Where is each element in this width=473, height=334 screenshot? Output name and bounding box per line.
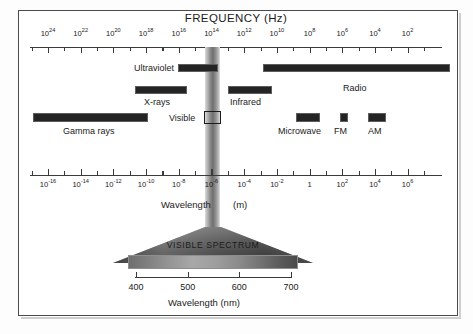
frequency-minor-tick (195, 47, 196, 51)
figure-frame-border (18, 10, 458, 316)
wavelength-tick-label: 10-2 (270, 180, 283, 189)
band-label-xrays: X-rays (144, 97, 170, 107)
wavelength-tick-label: 102 (336, 180, 348, 189)
frequency-minor-tick (228, 47, 229, 51)
frequency-minor-tick (326, 47, 327, 51)
wavelength-axis-label: Wavelength (161, 199, 211, 210)
frequency-minor-tick (293, 47, 294, 51)
band-label-visible: Visible (169, 113, 195, 123)
wavelength-tick-label: 106 (402, 180, 414, 189)
frequency-minor-tick (64, 47, 65, 51)
band-bar-infrared (228, 86, 272, 94)
nm-tick-label: 600 (232, 282, 247, 292)
frequency-tick-label: 1020 (106, 29, 121, 38)
nm-tick (239, 272, 240, 278)
wavelength-tick-label: 1 (307, 180, 311, 189)
visible-spectrum-strip (128, 255, 298, 269)
frequency-tick-label: 1018 (139, 29, 154, 38)
nm-tick (136, 272, 137, 278)
nm-axis-label: Wavelength (nm) (168, 297, 240, 308)
frequency-tick-label: 1010 (270, 29, 285, 38)
frequency-minor-tick (391, 47, 392, 51)
frequency-tick-label: 1012 (237, 29, 252, 38)
frequency-minor-tick (359, 47, 360, 51)
band-bar-am (368, 113, 386, 122)
band-label-radio: Radio (343, 83, 367, 93)
wavelength-tick-label: 10-6 (205, 180, 218, 189)
wavelength-tick-label: 10-4 (237, 180, 250, 189)
nm-tick (291, 272, 292, 278)
wavelength-axis-unit: (m) (233, 199, 247, 210)
frequency-major-tick (342, 47, 343, 53)
nm-tick-label: 400 (128, 282, 143, 292)
frequency-major-tick (48, 47, 49, 53)
frequency-major-tick (81, 47, 82, 53)
band-label-gamma-rays: Gamma rays (63, 126, 115, 136)
frequency-major-tick (408, 47, 409, 53)
band-label-am: AM (368, 126, 382, 136)
frequency-major-tick (277, 47, 278, 53)
nm-tick-label: 700 (283, 282, 298, 292)
frequency-major-tick (310, 47, 311, 53)
em-spectrum-figure: FREQUENCY (Hz) 1024102210201018101610141… (0, 0, 473, 334)
frequency-major-tick (244, 47, 245, 53)
band-bar-gamma-rays (33, 113, 148, 122)
frequency-minor-tick (424, 47, 425, 51)
wavelength-axis-line (30, 175, 442, 176)
band-label-ultraviolet: Ultraviolet (134, 63, 174, 73)
frequency-minor-tick (261, 47, 262, 51)
frequency-tick-label: 1022 (73, 29, 88, 38)
nm-scale-line (135, 277, 292, 278)
wavelength-tick-label: 10-12 (105, 180, 122, 189)
frequency-minor-tick (97, 47, 98, 51)
band-bar-radio (263, 64, 450, 72)
nm-tick-label: 500 (180, 282, 195, 292)
band-label-microwave: Microwave (278, 126, 321, 136)
frequency-tick-label: 106 (336, 29, 348, 38)
frequency-tick-label: 104 (369, 29, 381, 38)
band-bar-fm (340, 113, 348, 122)
frequency-major-tick (113, 47, 114, 53)
frequency-axis-title: FREQUENCY (Hz) (185, 12, 288, 24)
band-bar-microwave (296, 113, 320, 122)
wavelength-tick-label: 10-14 (72, 180, 89, 189)
frequency-tick-label: 1014 (204, 29, 219, 38)
wavelength-tick-label: 104 (369, 180, 381, 189)
frequency-minor-tick (130, 47, 131, 51)
frequency-tick-label: 102 (402, 29, 414, 38)
frequency-minor-tick (162, 47, 163, 51)
wavelength-tick-label: 10-16 (40, 180, 57, 189)
visible-band-marker (204, 111, 221, 124)
frequency-tick-label: 1016 (171, 29, 186, 38)
visible-spectrum-title: VISIBLE SPECTRUM (167, 240, 260, 250)
wavelength-tick-label: 10-10 (138, 180, 155, 189)
frequency-minor-tick (32, 47, 33, 51)
frequency-tick-label: 108 (304, 29, 316, 38)
band-label-fm: FM (334, 126, 347, 136)
nm-tick (188, 272, 189, 278)
band-label-infrared: Infrared (230, 97, 261, 107)
frequency-major-tick (375, 47, 376, 53)
frequency-major-tick (179, 47, 180, 53)
band-bar-xrays (135, 86, 187, 94)
frequency-major-tick (146, 47, 147, 53)
frequency-axis-line (30, 47, 442, 48)
band-bar-ultraviolet (178, 64, 218, 72)
frequency-tick-label: 1024 (41, 29, 56, 38)
wavelength-tick-label: 10-8 (172, 180, 185, 189)
